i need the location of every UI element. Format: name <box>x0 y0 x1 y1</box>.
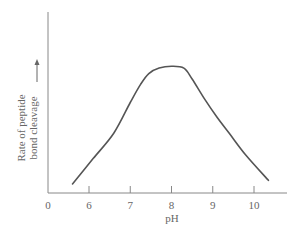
x-tick-label: 8 <box>169 199 175 211</box>
x-ticks: 678910 <box>86 186 260 211</box>
x-origin-label: 0 <box>45 199 51 211</box>
x-tick-label: 10 <box>249 199 261 211</box>
x-tick-label: 7 <box>128 199 134 211</box>
ph-rate-chart: 678910 0 pH Rate of peptide bond cleavag… <box>0 0 296 235</box>
x-tick-label: 9 <box>210 199 216 211</box>
x-tick-label: 6 <box>86 199 92 211</box>
x-axis-label: pH <box>165 212 179 224</box>
y-axis-label: Rate of peptide bond cleavage <box>15 94 39 161</box>
y-axis-arrow-icon <box>35 59 40 82</box>
rate-curve <box>73 66 269 184</box>
y-axis-label-line1: Rate of peptide <box>15 94 27 161</box>
y-axis-label-line2: bond cleavage <box>27 96 39 159</box>
